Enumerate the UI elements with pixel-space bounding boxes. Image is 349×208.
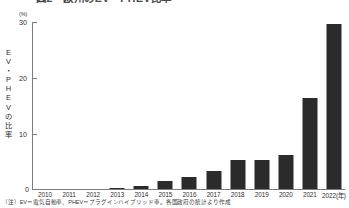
bar	[182, 177, 197, 189]
x-axis-tick-label: 2020	[279, 191, 293, 198]
footnote-strip: （注）EV＝電気自動車、PHEV＝プラグインハイブリッド車。各国政府の統計より作…	[0, 199, 349, 208]
x-axis-tick-label: 2012	[86, 191, 100, 198]
y-axis-title-char-9: 率	[3, 130, 14, 139]
y-axis-title-char-3: P	[3, 75, 14, 84]
bar-slot: 2010	[33, 22, 57, 189]
x-axis-tick-label: 2013	[110, 191, 124, 198]
y-axis-title-char-1: V	[3, 57, 14, 66]
x-axis-tick-label: 2017	[207, 191, 221, 198]
chart-footnote: （注）EV＝電気自動車、PHEV＝プラグインハイブリッド車。各国政府の統計より作…	[2, 199, 231, 206]
y-axis-tick-label-10: 10	[19, 130, 27, 139]
bar	[206, 171, 221, 189]
y-axis-title: EV・PHEVの比率	[3, 48, 14, 139]
y-axis-tick-label-20: 20	[19, 74, 27, 83]
x-axis-tick-label: 2016	[183, 191, 197, 198]
bar	[158, 181, 173, 189]
plot-area: 102030 201020112012201320142015201620172…	[32, 22, 345, 190]
y-axis-tick-label-30: 30	[19, 18, 27, 27]
x-axis-tick-label: 2015	[158, 191, 172, 198]
bar-slot: 2015	[153, 22, 177, 189]
y-axis-title-char-6: V	[3, 103, 14, 112]
bar	[110, 188, 125, 189]
bar	[134, 186, 149, 189]
y-axis-title-char-4: H	[3, 84, 14, 93]
bar-slot: 2014	[129, 22, 153, 189]
bar-slot: 2012	[81, 22, 105, 189]
bar-slot: 2019	[250, 22, 274, 189]
x-axis-line	[32, 189, 345, 190]
bar-slot: 2011	[57, 22, 81, 189]
bar	[254, 160, 269, 189]
bar	[326, 24, 341, 189]
x-axis-tick-label: 2011	[62, 191, 75, 198]
bar	[302, 98, 317, 189]
x-axis-tick-label: 2014	[134, 191, 148, 198]
bar-slot: 2016	[177, 22, 201, 189]
x-axis-tick-label: 2018	[231, 191, 245, 198]
y-axis-title-char-7: の	[3, 112, 14, 121]
y-axis-zero-label: 0	[25, 186, 29, 193]
chart-title: 図2 欧州のEV・PHEV比率	[36, 0, 172, 3]
bar-series: 2010201120122013201420152016201720182019…	[33, 22, 345, 189]
chart-title-strip: 図2 欧州のEV・PHEV比率	[0, 0, 349, 3]
bar-slot: 2021	[298, 22, 322, 189]
bar-slot: 2013	[105, 22, 129, 189]
chart-figure: 図2 欧州のEV・PHEV比率 (%) EV・PHEVの比率 102030 20…	[0, 0, 349, 208]
x-axis-tick-label: 2021	[303, 191, 317, 198]
bar-slot: 2017	[202, 22, 226, 189]
bar	[230, 160, 245, 189]
bar	[278, 155, 293, 189]
bar-slot: 2018	[226, 22, 250, 189]
y-axis-title-char-0: E	[3, 48, 14, 57]
y-axis-title-char-2: ・	[3, 66, 14, 75]
x-axis-tick-label: 2019	[255, 191, 269, 198]
y-axis-title-char-8: 比	[3, 121, 14, 130]
y-axis-unit-label: (%)	[19, 11, 27, 17]
bar-slot: 2022(年)	[322, 22, 346, 189]
bar-slot: 2020	[274, 22, 298, 189]
x-axis-tick-label: 2010	[38, 191, 52, 198]
y-axis-title-char-5: E	[3, 93, 14, 102]
